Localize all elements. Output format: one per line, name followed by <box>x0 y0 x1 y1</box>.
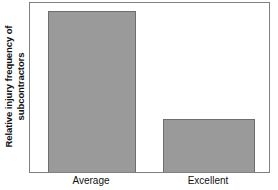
y-axis-label-line-2: subcontractors <box>15 26 27 148</box>
y-axis-label-line-1: Relative injury frequency of <box>4 26 16 148</box>
x-tick-label-excellent: Excellent <box>162 175 254 186</box>
x-axis-tick-labels: Average Excellent <box>29 174 270 190</box>
bar-excellent <box>163 119 255 172</box>
x-tick-label-average: Average <box>47 175 135 186</box>
bar-average <box>48 11 136 172</box>
y-axis-label: Relative injury frequency of subcontract… <box>4 26 27 148</box>
plot-area <box>30 3 269 172</box>
plot-frame <box>29 2 270 173</box>
y-axis-label-container: Relative injury frequency of subcontract… <box>0 0 30 173</box>
bar-chart-figure: Relative injury frequency of subcontract… <box>0 0 278 190</box>
